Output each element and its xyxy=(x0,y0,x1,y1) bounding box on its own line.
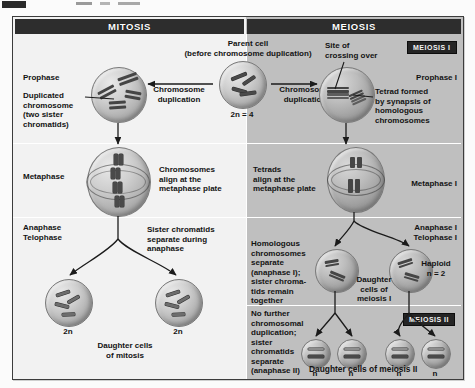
scan-artifact-mark-3 xyxy=(118,2,140,5)
chromosome xyxy=(115,196,119,207)
chromosome xyxy=(56,290,70,297)
chromosome-duplication-left-label: Chromosome duplication xyxy=(145,85,213,104)
mitosis-daughter-cell-2-label: 2n xyxy=(156,327,200,337)
chromosome xyxy=(67,295,80,304)
meiosis-i-badge: MEIOSIS I xyxy=(407,41,457,54)
parent-cell xyxy=(219,61,267,109)
mitosis-metaphase-callout: Chromosomes align at the metaphase plate xyxy=(159,165,243,194)
chromosome xyxy=(62,313,75,317)
scan-artifact-mark-2 xyxy=(100,2,110,5)
meiosis-prophase-i-stage-label: Prophase I xyxy=(365,73,457,83)
chromosome xyxy=(344,355,360,358)
chromosome xyxy=(308,348,324,350)
mitosis-meiosis-diagram: MITOSIS MEIOSIS Parent cell (before chro… xyxy=(12,16,464,380)
meiosis-metaphase-i-cell xyxy=(327,147,385,213)
mitosis-column-header: MITOSIS xyxy=(15,19,244,34)
meiosis-anaphase-i-callout: Homologous chromosomes separate (anaphas… xyxy=(251,239,313,306)
duplicated-chromosome xyxy=(109,100,127,109)
chromosome xyxy=(120,196,124,207)
mitosis-daughter-cell-2 xyxy=(155,279,203,327)
crossing-over-callout: Site of crossing over xyxy=(325,41,395,60)
figure-page: MITOSIS MEIOSIS Parent cell (before chro… xyxy=(0,0,475,388)
row-divider-mitosis-2 xyxy=(13,217,246,218)
duplicated-chromosome xyxy=(124,90,141,101)
mitosis-result-label: Daughter cells of mitosis xyxy=(79,341,171,360)
chromosome-pair xyxy=(328,270,345,282)
chromosome xyxy=(240,91,256,96)
chromosome xyxy=(111,168,115,179)
row-divider-meiosis-2 xyxy=(247,217,461,218)
meiosis-i-result-label: Daughter cells of meiosis I xyxy=(347,275,401,304)
meiosis-column-header: MEIOSIS xyxy=(247,19,461,34)
parent-cell-ploidy: 2n = 4 xyxy=(211,110,273,120)
chromosome xyxy=(114,154,118,165)
chromosome xyxy=(172,313,185,317)
row-divider-meiosis-1 xyxy=(247,143,461,144)
chromosome xyxy=(116,168,120,179)
duplicated-chromosome xyxy=(117,72,139,86)
mitosis-duplicated-chromosome-callout: Duplicated chromosome (two sister chroma… xyxy=(23,91,91,129)
meiosis-metaphase-i-callout: Tetrads align at the metaphase plate xyxy=(253,165,325,194)
chromosome xyxy=(392,348,408,350)
tetrad xyxy=(350,157,362,168)
chromosome xyxy=(119,154,123,165)
row-divider-mitosis-1 xyxy=(13,143,246,144)
mitosis-metaphase-stage-label: Metaphase xyxy=(23,172,64,182)
meiosis-ii-callout: No further chromosomal duplication; sist… xyxy=(251,309,313,376)
chromosome xyxy=(392,355,408,358)
scan-artifact-mark-1 xyxy=(76,2,92,5)
scan-artifact-black-bar xyxy=(2,1,26,8)
mitosis-prophase-stage-label: Prophase xyxy=(23,73,59,83)
chromosome xyxy=(308,355,324,358)
mitosis-daughter-cell-1-label: 2n xyxy=(46,327,90,337)
meiosis-ii-badge: MEIOSIS II xyxy=(403,313,455,326)
chromosome-pair xyxy=(324,259,339,268)
chromosome xyxy=(113,182,117,193)
tetrad xyxy=(348,89,366,105)
parent-cell-title: Parent cell xyxy=(163,39,333,49)
mitosis-anaphase-callout: Sister chromatids separate during anapha… xyxy=(147,225,243,254)
meiosis-prophase-i-cell xyxy=(319,67,375,123)
chromosome xyxy=(231,72,247,81)
chromosome xyxy=(165,302,179,308)
mitosis-daughter-cell-1 xyxy=(45,279,93,327)
chromosome xyxy=(428,348,444,350)
mitosis-metaphase-cell xyxy=(87,147,151,217)
mitosis-prophase-cell xyxy=(91,67,147,123)
tetrad xyxy=(327,87,349,99)
chromosome xyxy=(118,182,122,193)
meiosis-anaphase-i-stage-label: Anaphase I Telophase I xyxy=(359,223,457,242)
parent-cell-subtitle: (before chromosome duplication) xyxy=(153,49,343,59)
tetrad xyxy=(348,179,360,193)
mitosis-anaphase-stage-label: Anaphase Telophase xyxy=(23,223,62,242)
meiosis-ii-result-label: Daughter cells of meiosis II xyxy=(309,365,459,375)
haploid-label: Haploid n = 2 xyxy=(409,259,463,278)
chromosome xyxy=(428,355,444,358)
chromosome xyxy=(344,348,360,350)
tetrad-synapsis-callout: Tetrad formed by synapsis of homologous … xyxy=(375,87,459,125)
chromosome xyxy=(55,302,69,308)
duplicated-chromosome xyxy=(97,84,117,100)
chromosome xyxy=(177,295,190,304)
chromosome xyxy=(242,75,255,85)
chromosome xyxy=(166,290,180,297)
